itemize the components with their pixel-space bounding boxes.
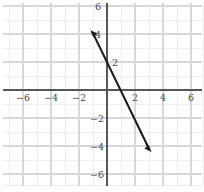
x-tick-label: −4 [44, 92, 58, 103]
x-tick-label: 4 [160, 92, 166, 103]
x-tick-label: 6 [188, 92, 194, 103]
plot-background [0, 0, 204, 192]
y-tick-label: 4 [95, 29, 101, 40]
y-tick-label: −2 [90, 113, 104, 124]
x-tick-label: 2 [132, 92, 138, 103]
y-tick-label: 6 [95, 1, 101, 12]
y-tick-label: −4 [90, 141, 104, 152]
coordinate-plane-graph: −6 −4 −2 2 4 6 6 4 2 −2 −4 −6 [0, 0, 204, 192]
x-tick-label: −2 [72, 92, 86, 103]
y-tick-label: 2 [112, 57, 118, 68]
graph-canvas: −6 −4 −2 2 4 6 6 4 2 −2 −4 −6 [0, 0, 204, 192]
x-tick-label: −6 [16, 92, 30, 103]
y-tick-label: −6 [90, 169, 104, 180]
